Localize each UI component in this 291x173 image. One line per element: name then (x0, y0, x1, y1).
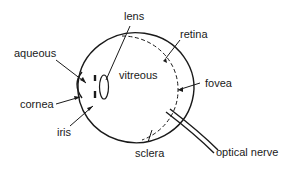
label-fovea: fovea (205, 78, 232, 89)
optic-nerve-shape (166, 109, 218, 153)
eyeball-outline (78, 33, 194, 143)
arrowheads (74, 58, 183, 111)
retina-layer (122, 36, 178, 140)
label-retina: retina (180, 29, 208, 40)
label-iris: iris (57, 127, 71, 138)
label-sclera: sclera (135, 148, 164, 159)
label-optical-nerve: optical nerve (216, 147, 278, 158)
label-lens: lens (124, 11, 144, 22)
label-aqueous: aqueous (14, 48, 56, 59)
label-cornea: cornea (20, 99, 54, 110)
label-vitreous: vitreous (119, 70, 158, 81)
eye-diagram: lens retina aqueous vitreous fovea corne… (0, 0, 291, 173)
